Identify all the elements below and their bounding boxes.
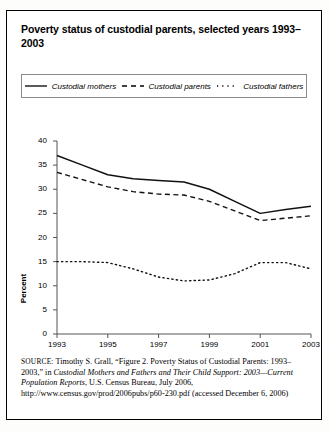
- y-tick-label: 35: [25, 160, 47, 169]
- x-tick-label: 2001: [244, 340, 276, 349]
- x-tick-label: 1993: [41, 340, 73, 349]
- legend-label-fathers: Custodial fathers: [243, 82, 303, 91]
- series-line-custodial-parents: [57, 172, 311, 220]
- figure-panel: Poverty status of custodial parents, sel…: [6, 10, 322, 420]
- source-note: SOURCE: Timothy S. Grall, “Figure 2. Pov…: [21, 357, 309, 399]
- source-label: SOURCE:: [21, 357, 54, 366]
- y-tick-label: 40: [25, 136, 47, 145]
- legend-label-mothers: Custodial mothers: [52, 82, 116, 91]
- legend-item-mothers: Custodial mothers: [25, 82, 116, 91]
- x-tick-label: 1995: [92, 340, 124, 349]
- series-line-custodial-fathers: [57, 262, 311, 281]
- legend-item-parents: Custodial parents: [122, 82, 211, 91]
- x-tick-label: 2003: [295, 340, 327, 349]
- legend-label-parents: Custodial parents: [149, 82, 211, 91]
- dotted-line-key: [216, 82, 238, 90]
- series-line-custodial-mothers: [57, 155, 311, 213]
- y-tick-label: 20: [25, 233, 47, 242]
- y-tick-label: 25: [25, 208, 47, 217]
- y-tick-label: 10: [25, 281, 47, 290]
- x-tick-label: 1997: [143, 340, 175, 349]
- y-tick-label: 15: [25, 257, 47, 266]
- figure-title: Poverty status of custodial parents, sel…: [21, 23, 311, 50]
- y-tick-label: 5: [25, 305, 47, 314]
- y-tick-label: 30: [25, 184, 47, 193]
- y-tick-label: 0: [25, 329, 47, 338]
- line-chart-svg: [7, 106, 323, 346]
- dashed-line-key: [122, 82, 144, 90]
- legend-item-fathers: Custodial fathers: [216, 82, 303, 91]
- x-tick-label: 1999: [193, 340, 225, 349]
- chart-legend: Custodial mothers Custodial parents Cust…: [21, 74, 307, 98]
- solid-line-key: [25, 82, 47, 90]
- plot-area: Percent 0510152025303540 199319951997199…: [7, 106, 323, 346]
